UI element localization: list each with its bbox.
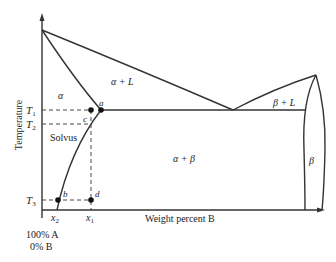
region-alpha-beta-label: α + β bbox=[173, 153, 195, 164]
point-a-label: a bbox=[99, 98, 104, 108]
t1-label: T1 bbox=[26, 104, 36, 118]
region-beta-label: β bbox=[308, 155, 314, 166]
region-alpha-liquid-label: α + L bbox=[111, 76, 134, 87]
point-d-marker bbox=[88, 197, 94, 203]
y-axis-label: Temperature bbox=[13, 99, 24, 150]
point-b-label: b bbox=[63, 189, 68, 199]
point-a-marker bbox=[98, 107, 104, 113]
liquidus-left bbox=[42, 30, 233, 110]
point-c-marker bbox=[88, 107, 94, 113]
origin-label-a: 100% A bbox=[26, 229, 59, 240]
beta-solidus bbox=[304, 75, 316, 210]
x-axis-label: Weight percent B bbox=[145, 213, 215, 224]
solvus-label: Solvus bbox=[50, 132, 77, 143]
x-axis-arrow-icon bbox=[317, 208, 325, 213]
phase-diagram: α α + L β + L Solvus α + β β a c b d T1 … bbox=[0, 0, 336, 262]
x1-label: x1 bbox=[85, 212, 94, 225]
point-d-label: d bbox=[95, 189, 100, 199]
t3-label: T3 bbox=[26, 194, 36, 208]
beta-solvus bbox=[316, 75, 325, 210]
point-c-label: c bbox=[83, 114, 87, 124]
point-b-marker bbox=[55, 197, 61, 203]
region-alpha-label: α bbox=[58, 90, 64, 101]
y-axis-arrow-icon bbox=[40, 13, 45, 21]
x2-label: x2 bbox=[50, 212, 59, 225]
t2-label: T2 bbox=[26, 118, 36, 132]
region-beta-liquid-label: β + L bbox=[272, 97, 296, 108]
origin-label-b: 0% B bbox=[30, 241, 53, 252]
